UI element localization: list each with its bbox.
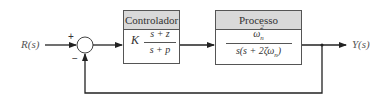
process-block: Processo ωn2 s(s + 2ζωn) [215,10,302,65]
minus-sign: − [72,53,78,64]
process-fraction-line [226,43,292,44]
controller-fraction-line [144,42,176,43]
plus-sign: + [68,31,74,42]
controller-denominator: s + p [146,44,174,55]
output-label: Y(s) [352,38,370,50]
input-label: R(s) [21,38,39,50]
controller-block: Controlador K s + z s + p [123,10,180,64]
diagram-lines [0,0,387,99]
controller-gain: K [131,33,139,48]
summing-junction [77,37,93,53]
process-denominator: s(s + 2ζωn) [216,45,301,59]
controller-numerator: s + z [146,28,174,39]
process-numerator: ωn2 [216,28,301,42]
